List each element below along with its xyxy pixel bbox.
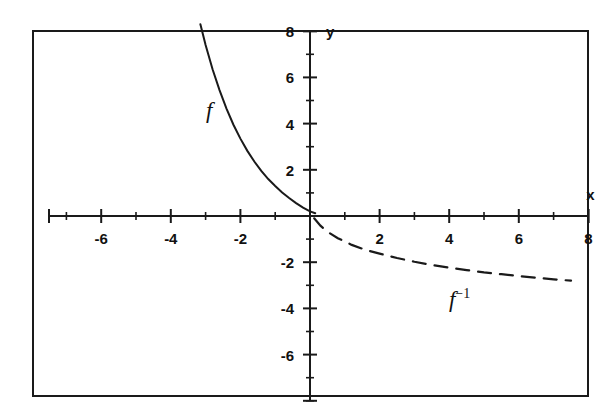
graph-figure: -6-4-224688642-2-4-6xyff−1 xyxy=(0,0,616,419)
x-tick-label-4: 4 xyxy=(445,231,453,246)
curve-f xyxy=(200,24,315,213)
x-tick-label--6: -6 xyxy=(95,231,108,246)
x-tick-label--2: -2 xyxy=(234,231,247,246)
x-tick-label--4: -4 xyxy=(164,231,177,246)
curve-f-inverse xyxy=(314,218,571,280)
y-tick-label-2: 2 xyxy=(286,162,294,177)
x-tick-label-6: 6 xyxy=(515,231,523,246)
curve-label-f-inverse: f−1 xyxy=(449,287,470,311)
curve-label-f: f xyxy=(206,98,212,121)
plot-canvas xyxy=(0,0,616,419)
curve-label-f-inverse-exponent: −1 xyxy=(455,286,470,301)
y-tick-label--6: -6 xyxy=(281,347,294,362)
y-tick-label-6: 6 xyxy=(286,70,294,85)
y-axis-name: y xyxy=(326,24,334,39)
y-tick-label--2: -2 xyxy=(281,255,294,270)
y-tick-label--4: -4 xyxy=(281,301,294,316)
x-tick-label-8: 8 xyxy=(584,231,592,246)
x-tick-label-2: 2 xyxy=(375,231,383,246)
y-tick-label-8: 8 xyxy=(286,24,294,39)
y-tick-label-4: 4 xyxy=(286,116,294,131)
x-axis-name: x xyxy=(586,187,594,202)
